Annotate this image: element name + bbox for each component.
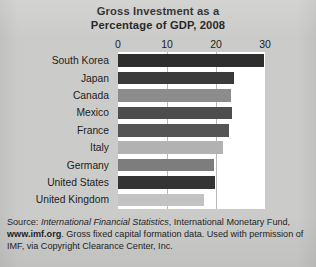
category-label-italy: Italy — [0, 139, 114, 156]
source-url: www.imf.org — [7, 229, 61, 239]
chart-figure: Gross Investment as a Percentage of GDP,… — [0, 0, 316, 267]
source-line2-rest: . Gross fixed capital formation data. Us… — [61, 229, 293, 239]
category-label-germany: Germany — [0, 156, 114, 173]
bar-united-kingdom — [118, 194, 204, 207]
x-tick-label-20: 20 — [210, 38, 222, 51]
category-label-united-kingdom: United Kingdom — [0, 191, 114, 208]
category-label-mexico: Mexico — [0, 104, 114, 121]
x-tick-label-0: 0 — [115, 38, 121, 51]
category-label-france: France — [0, 122, 114, 139]
x-tick-label-10: 10 — [161, 38, 173, 51]
bar-mexico — [118, 107, 232, 120]
bar-row — [118, 87, 265, 104]
bar-japan — [118, 72, 234, 85]
category-label-canada: Canada — [0, 87, 114, 104]
bar-united-states — [118, 176, 215, 189]
source-prefix: Source: — [7, 217, 41, 227]
bar-row — [118, 122, 265, 139]
bar-row — [118, 139, 265, 156]
chart-title: Gross Investment as a Percentage of GDP,… — [0, 4, 316, 32]
bar-italy — [118, 141, 223, 154]
bar-canada — [118, 89, 231, 102]
chart-title-line-1: Gross Investment as a — [0, 4, 316, 18]
x-tick-label-30: 30 — [259, 38, 271, 51]
bar-row — [118, 191, 265, 208]
category-label-japan: Japan — [0, 69, 114, 86]
bar-row — [118, 174, 265, 191]
bar-row — [118, 52, 265, 69]
source-note: Source: International Financial Statisti… — [7, 216, 307, 253]
bar-row — [118, 156, 265, 173]
plot-area — [118, 52, 265, 209]
bar-france — [118, 124, 229, 137]
category-axis-labels: South KoreaJapanCanadaMexicoFranceItalyG… — [0, 52, 114, 209]
source-publication-title: International Financial Statistics — [41, 217, 169, 227]
bar-south-korea — [118, 54, 264, 67]
chart-title-line-2: Percentage of GDP, 2008 — [0, 18, 316, 32]
bar-row — [118, 104, 265, 121]
category-label-south-korea: South Korea — [0, 52, 114, 69]
x-axis-tick-labels: 0102030 — [0, 38, 316, 52]
bar-germany — [118, 159, 214, 172]
bar-series — [118, 52, 265, 209]
category-label-united-states: United States — [0, 174, 114, 191]
bar-row — [118, 69, 265, 86]
source-line1-suffix: , International Monetary Fund, — [169, 217, 290, 227]
